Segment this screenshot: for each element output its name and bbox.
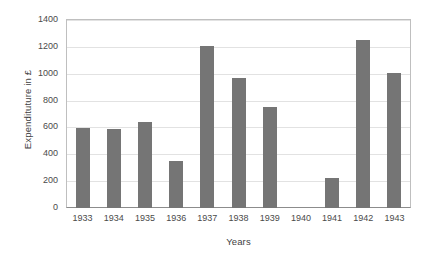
bar[interactable] [356, 40, 370, 208]
y-tick-label: 800 [0, 95, 62, 104]
x-tick-label: 1935 [129, 212, 160, 224]
bar-slot [223, 20, 254, 208]
bar[interactable] [232, 78, 246, 208]
bar-series [67, 20, 410, 208]
bar[interactable] [76, 128, 90, 208]
bar[interactable] [107, 129, 121, 208]
bar[interactable] [387, 73, 401, 208]
y-tick-label: 400 [0, 149, 62, 158]
bar[interactable] [325, 178, 339, 208]
bar-slot [348, 20, 379, 208]
bar-slot [317, 20, 348, 208]
bar-slot [254, 20, 285, 208]
bar[interactable] [200, 46, 214, 208]
bar-slot [285, 20, 316, 208]
bar[interactable] [263, 107, 277, 208]
y-tick-label: 200 [0, 176, 62, 185]
x-tick-label: 1939 [254, 212, 285, 224]
x-tick-label: 1941 [317, 212, 348, 224]
x-tick-label: 1943 [379, 212, 410, 224]
bar-slot [98, 20, 129, 208]
x-tick-label: 1934 [98, 212, 129, 224]
y-tick-label: 1000 [0, 68, 62, 77]
x-tick-label: 1940 [285, 212, 316, 224]
y-tick-label: 1400 [0, 15, 62, 24]
x-tick-label: 1936 [161, 212, 192, 224]
y-tick-label: 0 [0, 203, 62, 212]
x-tick-label: 1937 [192, 212, 223, 224]
y-tick-label: 600 [0, 122, 62, 131]
x-tick-label: 1933 [67, 212, 98, 224]
bar-slot [67, 20, 98, 208]
bar-slot [129, 20, 160, 208]
bar[interactable] [138, 122, 152, 208]
bar-chart: Expendituture in £ 1400 1200 1000 800 60… [0, 0, 425, 262]
bar-slot [379, 20, 410, 208]
x-axis-title: Years [66, 236, 411, 247]
x-axis-tick-labels: 1933193419351936193719381939194019411942… [67, 212, 410, 224]
y-axis-tick-labels: 1400 1200 1000 800 600 400 200 0 [0, 19, 62, 208]
x-tick-label: 1942 [348, 212, 379, 224]
x-tick-label: 1938 [223, 212, 254, 224]
bar-slot [161, 20, 192, 208]
bar[interactable] [169, 161, 183, 208]
bar-slot [192, 20, 223, 208]
y-tick-label: 1200 [0, 41, 62, 50]
